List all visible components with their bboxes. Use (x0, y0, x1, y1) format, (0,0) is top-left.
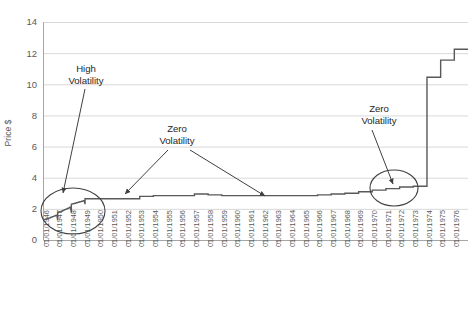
x-tick-label: 01/01/1952 (124, 210, 133, 247)
x-tick-label: 01/01/1955 (165, 210, 174, 247)
x-tick-label: 01/01/1968 (343, 210, 352, 247)
x-tick-label: 01/01/1967 (329, 210, 338, 247)
price-line-chart: 02468101214 01/01/194601/01/194701/01/19… (0, 0, 476, 322)
high-volatility-label-line2: Volatility (68, 75, 103, 86)
y-tick-label: 0 (32, 234, 37, 245)
y-axis-title: Price $ (3, 119, 13, 146)
chart-background (0, 0, 476, 322)
y-tick-label: 8 (32, 110, 37, 121)
x-tick-label: 01/01/1970 (370, 210, 379, 247)
x-tick-label: 01/01/1951 (110, 210, 119, 247)
chart-container: 02468101214 01/01/194601/01/194701/01/19… (0, 0, 476, 322)
x-tick-label: 01/01/1953 (137, 210, 146, 247)
y-tick-label: 6 (32, 141, 37, 152)
y-tick-label: 10 (26, 79, 37, 90)
x-tick-label: 01/01/1956 (178, 210, 187, 247)
x-tick-label: 01/01/1973 (411, 210, 420, 247)
x-tick-label: 01/01/1975 (438, 210, 447, 247)
x-tick-label: 01/01/1954 (151, 210, 160, 247)
x-tick-label: 01/01/1976 (452, 210, 461, 247)
x-tick-label: 01/01/1948 (69, 210, 78, 247)
x-tick-label: 01/01/1972 (397, 210, 406, 247)
x-tick-label: 01/01/1974 (425, 210, 434, 247)
x-tick-label: 01/01/1958 (206, 210, 215, 247)
zero-volatility-right-label-line1: Zero (369, 103, 389, 114)
x-tick-label: 01/01/1969 (356, 210, 365, 247)
zero-volatility-mid-label-line1: Zero (167, 123, 187, 134)
x-tick-label: 01/01/1971 (384, 210, 393, 247)
x-tick-label: 01/01/1966 (315, 210, 324, 247)
y-tick-label: 12 (26, 48, 37, 59)
x-tick-label: 01/01/1965 (302, 210, 311, 247)
x-tick-label: 01/01/1957 (192, 210, 201, 247)
x-tick-label: 01/01/1964 (288, 210, 297, 247)
x-tick-label: 01/01/1961 (247, 210, 256, 247)
x-tick-label: 01/01/1960 (233, 210, 242, 247)
x-tick-label: 01/01/1963 (274, 210, 283, 247)
x-tick-label: 01/01/1949 (83, 210, 92, 247)
high-volatility-label-line1: High (76, 63, 96, 74)
x-tick-label: 01/01/1962 (261, 210, 270, 247)
zero-volatility-mid-label-line2: Volatility (159, 135, 194, 146)
x-tick-label: 01/01/1959 (220, 210, 229, 247)
y-tick-label: 4 (32, 172, 37, 183)
x-tick-label: 01/01/1946 (42, 210, 51, 247)
zero-volatility-right-label-line2: Volatility (361, 115, 396, 126)
y-tick-label: 2 (32, 203, 37, 214)
y-tick-label: 14 (26, 16, 37, 27)
